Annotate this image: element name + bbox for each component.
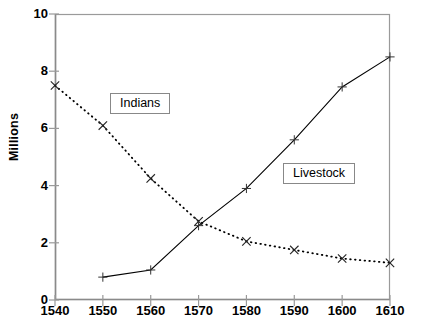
x-tick-label: 1550 [80,304,126,317]
chart-figure: Millions 0246810 15401550156015701580159… [0,0,424,336]
x-tick-label: 1540 [32,304,78,317]
x-tick-label: 1560 [128,304,174,317]
x-tick-label: 1580 [223,304,269,317]
x-tick-label: 1610 [367,304,413,317]
x-tick-label: 1600 [319,304,365,317]
x-tick-label: 1570 [176,304,222,317]
series-label-livestock: Livestock [283,163,355,184]
x-axis-tick-labels: 15401550156015701580159016001610 [0,0,424,336]
x-tick-label: 1590 [271,304,317,317]
series-label-indians: Indians [110,93,170,114]
